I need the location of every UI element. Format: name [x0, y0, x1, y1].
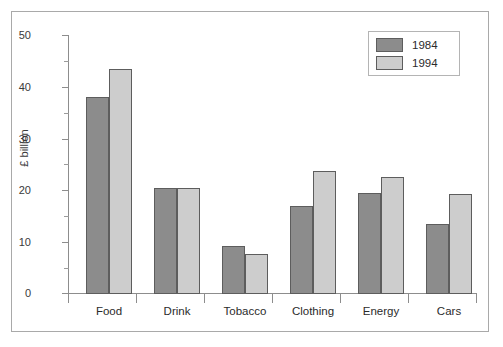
bar-energy-1984[interactable]	[358, 193, 381, 294]
bar-drink-1994[interactable]	[177, 188, 200, 294]
y-tick-minor-25	[64, 164, 69, 165]
x-label-tobacco: Tobacco	[210, 305, 280, 318]
x-tick-1	[136, 294, 137, 303]
bar-energy-1994[interactable]	[381, 177, 404, 294]
x-label-energy: Energy	[346, 305, 416, 318]
x-tick-4	[340, 294, 341, 303]
bar-food-1984[interactable]	[86, 97, 109, 294]
y-tick-50	[62, 35, 69, 36]
bar-cars-1994[interactable]	[449, 194, 472, 294]
y-tick-label-50: 50	[0, 30, 31, 41]
x-tick-0	[68, 294, 69, 303]
legend-label-1984: 1984	[412, 38, 438, 52]
x-label-cars: Cars	[414, 305, 484, 318]
bar-tobacco-1994[interactable]	[245, 254, 268, 294]
y-axis-title: £ billion	[18, 103, 30, 193]
legend-swatch-1984-icon	[376, 38, 403, 52]
bar-tobacco-1984[interactable]	[222, 246, 245, 294]
y-tick-20	[62, 190, 69, 191]
x-label-clothing: Clothing	[278, 305, 348, 318]
x-tick-5	[408, 294, 409, 303]
bar-drink-1984[interactable]	[154, 188, 177, 294]
chart-frame: £ billion 50 40 30 20 10 0	[11, 11, 489, 332]
bar-clothing-1984[interactable]	[290, 206, 313, 294]
x-tick-2	[204, 294, 205, 303]
y-tick-minor-35	[64, 113, 69, 114]
bar-cars-1984[interactable]	[426, 224, 449, 294]
chart-page: £ billion 50 40 30 20 10 0	[0, 0, 503, 347]
x-label-drink: Drink	[142, 305, 212, 318]
x-tick-3	[272, 294, 273, 303]
y-tick-minor-5	[64, 268, 69, 269]
y-tick-10	[62, 242, 69, 243]
legend-label-1994: 1994	[412, 56, 438, 70]
y-tick-40	[62, 87, 69, 88]
y-tick-label-30: 30	[0, 134, 31, 145]
legend-swatch-1994-icon	[376, 56, 403, 70]
legend: 1984 1994	[368, 31, 460, 76]
y-tick-label-0: 0	[0, 288, 31, 299]
y-tick-label-10: 10	[0, 237, 31, 248]
x-label-food: Food	[74, 305, 144, 318]
y-tick-minor-15	[64, 216, 69, 217]
x-tick-6	[476, 294, 477, 303]
y-tick-30	[62, 139, 69, 140]
bar-clothing-1994[interactable]	[313, 171, 336, 294]
plot-area: £ billion 50 40 30 20 10 0	[12, 12, 490, 333]
y-tick-label-40: 40	[0, 82, 31, 93]
y-tick-label-20: 20	[0, 185, 31, 196]
y-tick-minor-45	[64, 61, 69, 62]
bar-food-1994[interactable]	[109, 69, 132, 294]
